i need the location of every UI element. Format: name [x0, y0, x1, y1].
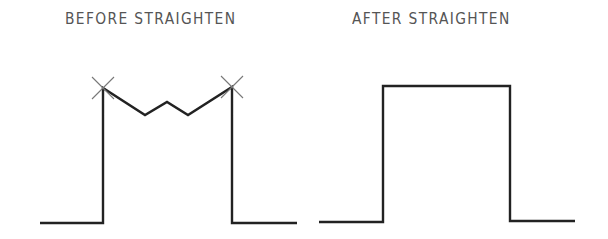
profile-line: [319, 86, 575, 222]
profile-line: [40, 87, 297, 223]
before-straighten-figure: [40, 76, 297, 223]
after-straighten-figure: [319, 86, 575, 222]
diagram-canvas: [0, 0, 608, 239]
